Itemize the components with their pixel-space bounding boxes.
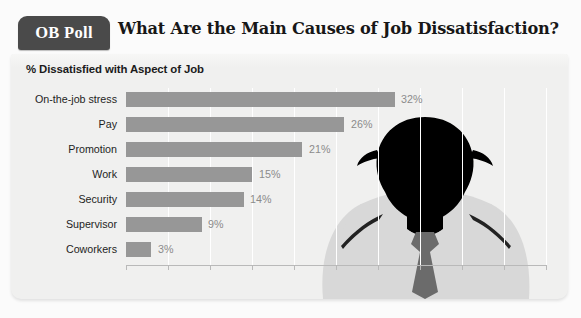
bar-category-label: Security: [78, 191, 117, 207]
bar-promotion: [126, 142, 302, 157]
x-tick: [168, 266, 169, 270]
bar-value-label: 3%: [158, 241, 173, 257]
bar-value-label: 9%: [208, 216, 223, 232]
bar-coworkers: [126, 242, 151, 257]
bar-category-label: On-the-job stress: [35, 91, 117, 107]
chart-plot-area: On-the-job stress 32% Pay 26% Promotion …: [126, 88, 546, 266]
bar-category-label: Coworkers: [66, 241, 117, 257]
bar-value-label: 15%: [259, 166, 280, 182]
bar-category-label: Promotion: [68, 141, 117, 157]
gridline-50: [546, 88, 547, 266]
gridline-45: [504, 88, 505, 266]
gridline-30: [378, 88, 379, 266]
gridline-15: [252, 88, 253, 266]
x-tick: [210, 266, 211, 270]
x-tick: [378, 266, 379, 270]
gridline-25: [336, 88, 337, 266]
x-tick: [294, 266, 295, 270]
x-tick: [126, 266, 127, 270]
x-tick: [336, 266, 337, 270]
bar-value-label: 14%: [250, 191, 271, 207]
bar-on-the-job-stress: [126, 92, 395, 107]
bar-work: [126, 167, 252, 182]
chart-panel: % Dissatisfied with Aspect of Job: [11, 54, 568, 299]
chart-subtitle: % Dissatisfied with Aspect of Job: [26, 63, 204, 75]
bar-value-label: 32%: [401, 91, 422, 107]
x-tick: [462, 266, 463, 270]
gridline-20: [294, 88, 295, 266]
x-tick: [504, 266, 505, 270]
bar-security: [126, 192, 244, 207]
bar-value-label: 21%: [309, 141, 330, 157]
x-tick: [546, 266, 547, 270]
x-tick: [420, 266, 421, 270]
bar-value-label: 26%: [351, 116, 372, 132]
bar-category-label: Work: [92, 166, 117, 182]
gridline-35: [420, 88, 421, 266]
bar-category-label: Pay: [99, 116, 117, 132]
bar-category-label: Supervisor: [66, 216, 117, 232]
bar-supervisor: [126, 217, 202, 232]
header: OB Poll What Are the Main Causes of Job …: [0, 0, 581, 56]
x-tick: [252, 266, 253, 270]
bar-pay: [126, 117, 344, 132]
gridline-40: [462, 88, 463, 266]
page-title: What Are the Main Causes of Job Dissatis…: [118, 19, 559, 38]
poll-infographic: OB Poll What Are the Main Causes of Job …: [0, 0, 581, 318]
ob-poll-badge: OB Poll: [18, 16, 110, 50]
